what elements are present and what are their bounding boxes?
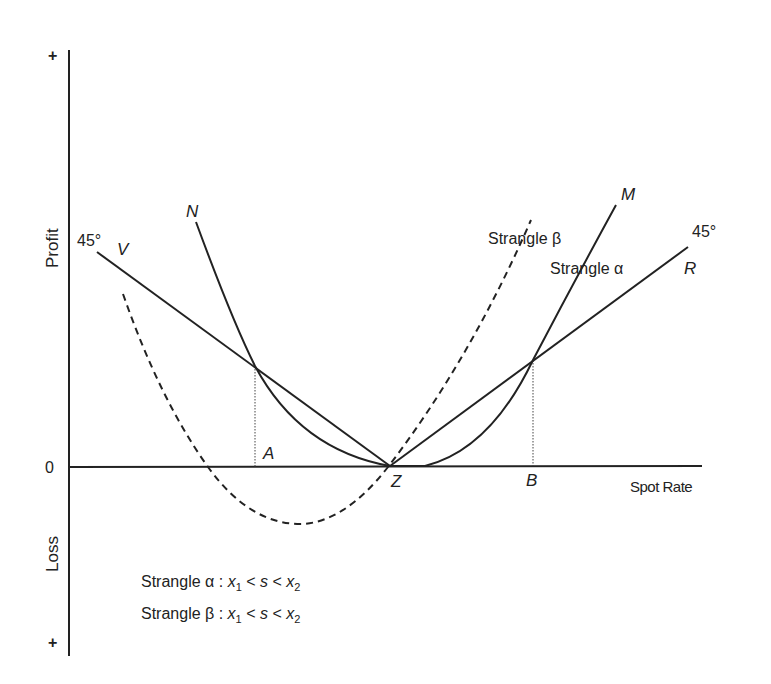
label-strangle-beta: Strangle β bbox=[488, 230, 561, 247]
line-V bbox=[97, 252, 390, 466]
label-R: R bbox=[684, 259, 696, 278]
y-axis-top-sign: + bbox=[48, 47, 57, 64]
point-A-label: A bbox=[262, 444, 274, 463]
curve-strangle-beta bbox=[123, 220, 531, 524]
angle-right-label: 45° bbox=[692, 223, 716, 240]
curve-N bbox=[196, 222, 390, 466]
profit-label: Profit bbox=[43, 228, 62, 268]
label-N: N bbox=[186, 202, 199, 221]
spot-rate-label: Spot Rate bbox=[630, 478, 692, 495]
legend-strangle-alpha: Strangle α : x1 < s < x2 bbox=[141, 573, 300, 593]
loss-label: Loss bbox=[43, 536, 62, 572]
angle-left-label: 45° bbox=[77, 232, 101, 249]
line-R bbox=[390, 247, 688, 466]
point-B-label: B bbox=[526, 471, 537, 490]
y-axis-bottom-sign: + bbox=[48, 634, 57, 651]
label-strangle-alpha: Strangle α bbox=[550, 260, 623, 277]
legend-strangle-beta: Strangle β : x1 < s < x2 bbox=[141, 605, 300, 625]
strangle-payoff-diagram: + + 0 Profit Loss Spot Rate 45° V N Stra… bbox=[0, 0, 771, 684]
point-Z-label: Z bbox=[390, 472, 402, 491]
label-M: M bbox=[621, 185, 636, 204]
label-V: V bbox=[117, 240, 130, 259]
zero-label: 0 bbox=[45, 459, 54, 476]
